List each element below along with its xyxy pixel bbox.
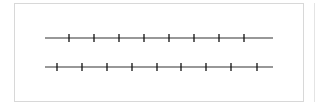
top-number-line [45,34,273,42]
bottom-number-line [45,63,273,71]
number-lines-diagram [0,0,320,109]
